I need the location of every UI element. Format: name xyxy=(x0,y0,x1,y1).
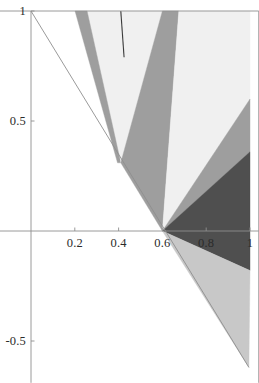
y-tick-label-1: 1 xyxy=(20,5,26,18)
region-plot: 0.20.40.60.8110.5-0.5 xyxy=(0,0,259,383)
y-tick-label--0.5: -0.5 xyxy=(5,335,26,348)
x-tick-label-0.2: 0.2 xyxy=(67,237,83,250)
plot-canvas xyxy=(0,0,259,383)
x-tick-label-0.4: 0.4 xyxy=(110,237,126,250)
x-tick-label-0.8: 0.8 xyxy=(198,237,214,250)
x-tick-label-1: 1 xyxy=(247,237,253,250)
x-tick-label-0.6: 0.6 xyxy=(154,237,170,250)
y-tick-label-0.5: 0.5 xyxy=(10,115,26,128)
region-layer xyxy=(75,11,250,367)
